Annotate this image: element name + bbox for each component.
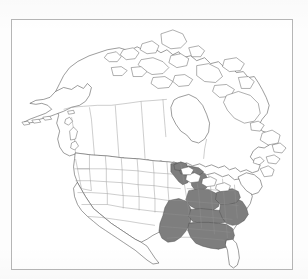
north-america-range-map	[12, 20, 292, 269]
figure-panel	[0, 0, 308, 279]
map-frame	[11, 19, 293, 270]
florida	[225, 239, 239, 268]
